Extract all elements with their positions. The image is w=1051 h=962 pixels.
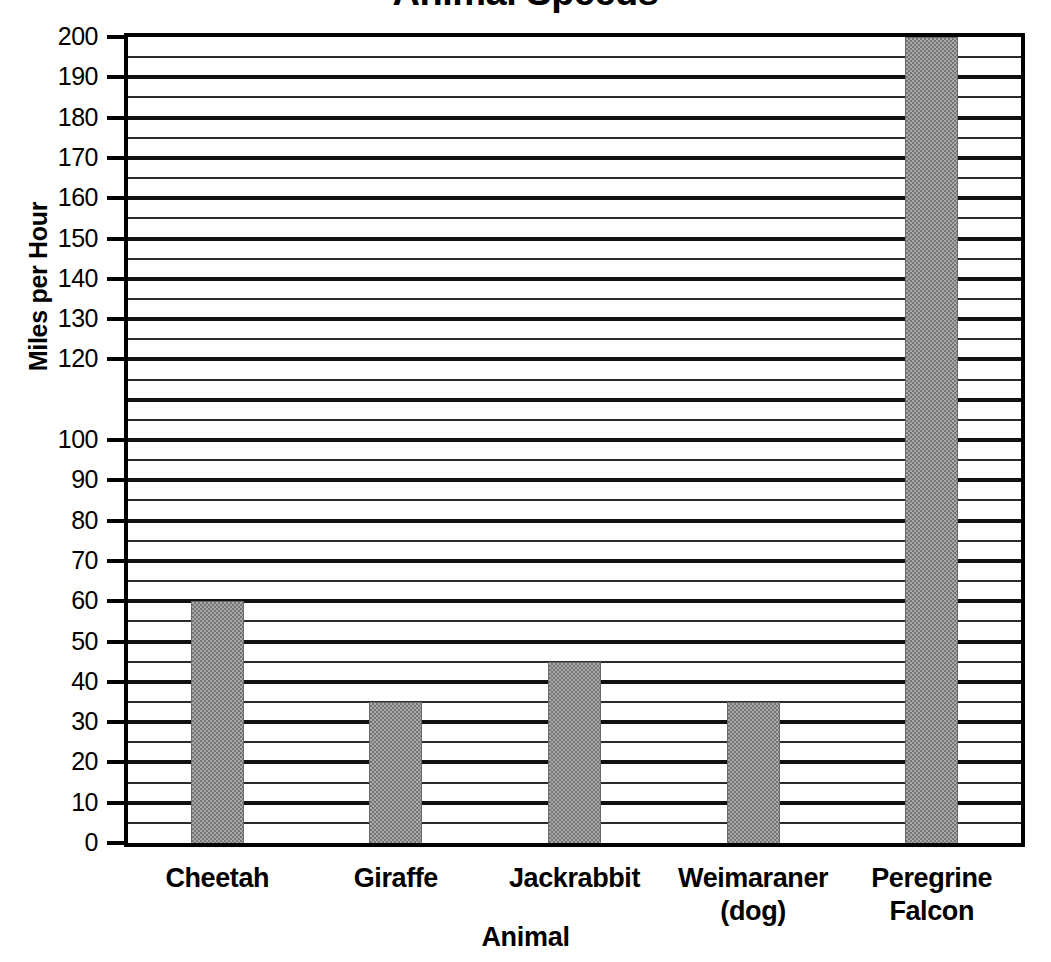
y-axis-tick bbox=[107, 680, 124, 684]
bar bbox=[727, 702, 780, 843]
gridline-major bbox=[128, 640, 1021, 644]
x-axis-category-label: PeregrineFalcon bbox=[842, 862, 1021, 928]
y-axis-tick bbox=[107, 640, 124, 644]
x-axis-category-label: Giraffe bbox=[307, 862, 486, 895]
x-axis-category-label-line: Peregrine bbox=[842, 862, 1021, 895]
bar bbox=[548, 662, 601, 843]
gridline-minor bbox=[128, 540, 1021, 542]
y-axis-tick bbox=[107, 599, 124, 603]
gridline-major bbox=[128, 317, 1021, 321]
y-axis-tick bbox=[107, 438, 124, 442]
y-axis-tick-label: 120 bbox=[0, 346, 98, 371]
gridline-minor bbox=[128, 419, 1021, 421]
x-axis-category-label-line: Jackrabbit bbox=[485, 862, 664, 895]
y-axis-tick bbox=[107, 196, 124, 200]
plot-inner bbox=[128, 37, 1021, 843]
y-axis-tick-label: 20 bbox=[0, 749, 98, 774]
y-axis-tick bbox=[107, 841, 124, 845]
y-axis-tick bbox=[107, 801, 124, 805]
y-axis-tick-label: 180 bbox=[0, 105, 98, 130]
y-axis-tick-label: 70 bbox=[0, 548, 98, 573]
gridline-minor bbox=[128, 459, 1021, 461]
x-axis-category-label: Cheetah bbox=[128, 862, 307, 895]
y-axis-tick-label: 80 bbox=[0, 508, 98, 533]
x-axis-category-label-line: Weimaraner bbox=[664, 862, 843, 895]
gridline-major bbox=[128, 519, 1021, 523]
gridline-major bbox=[128, 357, 1021, 361]
gridline-major bbox=[128, 277, 1021, 281]
gridline-major bbox=[128, 559, 1021, 563]
y-axis-tick bbox=[107, 35, 124, 39]
gridline-major bbox=[128, 156, 1021, 160]
gridline-minor bbox=[128, 137, 1021, 139]
y-axis-tick bbox=[107, 116, 124, 120]
y-axis-tick-label: 140 bbox=[0, 266, 98, 291]
y-axis-tick bbox=[107, 760, 124, 764]
y-axis-tick-label: 90 bbox=[0, 467, 98, 492]
gridline-minor bbox=[128, 620, 1021, 622]
gridline-major bbox=[128, 398, 1021, 402]
x-axis-category-label-line: Cheetah bbox=[128, 862, 307, 895]
gridline-minor bbox=[128, 258, 1021, 260]
x-axis-category-label-line: Giraffe bbox=[307, 862, 486, 895]
y-axis-tick bbox=[107, 237, 124, 241]
y-axis-tick-label: 50 bbox=[0, 629, 98, 654]
gridline-minor bbox=[128, 96, 1021, 98]
y-axis-tick bbox=[107, 519, 124, 523]
bar bbox=[369, 702, 422, 843]
x-axis-category-label: Jackrabbit bbox=[485, 862, 664, 895]
y-axis-tick-label: 190 bbox=[0, 64, 98, 89]
plot-area bbox=[124, 33, 1025, 847]
gridline-major bbox=[128, 599, 1021, 603]
gridline-major bbox=[128, 237, 1021, 241]
gridline-minor bbox=[128, 56, 1021, 58]
y-axis-tick-label: 170 bbox=[0, 145, 98, 170]
chart-title: Animal Speeds bbox=[0, 0, 1051, 14]
y-axis-tick bbox=[107, 277, 124, 281]
gridline-minor bbox=[128, 177, 1021, 179]
gridline-minor bbox=[128, 217, 1021, 219]
gridline-major bbox=[128, 478, 1021, 482]
gridline-minor bbox=[128, 580, 1021, 582]
gridline-minor bbox=[128, 499, 1021, 501]
gridline-major bbox=[128, 116, 1021, 120]
gridline-minor bbox=[128, 379, 1021, 381]
bar bbox=[191, 601, 244, 843]
y-axis-tick-label: 60 bbox=[0, 588, 98, 613]
gridline-major bbox=[128, 438, 1021, 442]
y-axis-tick-label: 10 bbox=[0, 790, 98, 815]
gridline-minor bbox=[128, 298, 1021, 300]
y-axis-tick-label: 40 bbox=[0, 669, 98, 694]
x-axis-title: Animal bbox=[0, 922, 1051, 953]
bar bbox=[905, 37, 958, 843]
y-axis-tick bbox=[107, 156, 124, 160]
x-axis-category-label: Weimaraner(dog) bbox=[664, 862, 843, 928]
y-axis-tick bbox=[107, 478, 124, 482]
y-axis-tick-label: 0 bbox=[0, 830, 98, 855]
y-axis-tick-label: 160 bbox=[0, 185, 98, 210]
y-axis-tick bbox=[107, 559, 124, 563]
y-axis-tick-label: 130 bbox=[0, 306, 98, 331]
y-axis-tick bbox=[107, 317, 124, 321]
y-axis-tick bbox=[107, 75, 124, 79]
y-axis-tick bbox=[107, 357, 124, 361]
gridline-minor bbox=[128, 338, 1021, 340]
y-axis-tick bbox=[107, 720, 124, 724]
y-axis-tick-label: 100 bbox=[0, 427, 98, 452]
y-axis-tick-label: 30 bbox=[0, 709, 98, 734]
gridline-major bbox=[128, 196, 1021, 200]
y-axis-tick-label: 150 bbox=[0, 226, 98, 251]
gridline-major bbox=[128, 75, 1021, 79]
y-axis-tick-label: 200 bbox=[0, 24, 98, 49]
